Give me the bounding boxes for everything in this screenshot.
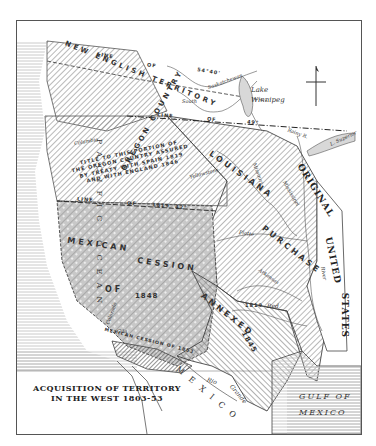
label-south-sask: South — [182, 99, 197, 104]
label-of: OF — [105, 286, 123, 294]
label-pacific: PACIFIC OCEAN — [95, 139, 103, 311]
map-title: ACQUISITION OF TERRITORY IN THE WEST 180… — [17, 383, 197, 404]
label-line-49-c: 49° — [247, 119, 260, 125]
north-arrow-icon — [306, 66, 326, 106]
label-line-42-d: 42° — [175, 205, 188, 211]
label-line-49-b: OF — [207, 117, 217, 123]
label-lake-2: Winnipeg — [251, 97, 285, 104]
map-title-line1: ACQUISITION OF TERRITORY — [17, 383, 197, 393]
label-1848: 1848 — [135, 293, 158, 300]
label-river: River — [320, 266, 327, 280]
label-lake-1: Lake — [251, 87, 268, 94]
map-frame: NEW ENGLISH TERRITORY OREGON COUNTRY TIT… — [16, 20, 362, 435]
map-title-line2: IN THE WEST 1803-53 — [17, 393, 197, 403]
label-gulf-line1: GULF OF — [299, 393, 352, 401]
label-1819-red: 1819 — [245, 303, 263, 308]
label-line-42-a: LINE — [77, 196, 94, 202]
label-line-42-b: OF — [127, 201, 137, 207]
label-states: STATES — [340, 293, 349, 338]
label-gila: Gila — [117, 329, 127, 334]
label-gulf-line2: MEXICO — [299, 409, 347, 417]
label-red: Red — [267, 303, 279, 309]
